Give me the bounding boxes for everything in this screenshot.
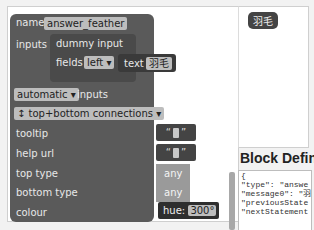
hue-block[interactable]: hue: 300° xyxy=(158,202,219,219)
colour-label: colour xyxy=(16,207,47,218)
quote-close-icon: ” xyxy=(181,147,186,158)
code-line: "message0": "羽 xyxy=(241,189,311,198)
fields-align-dropdown[interactable]: left ▾ xyxy=(84,56,114,69)
text-label: text xyxy=(124,58,144,69)
name-field[interactable]: answer_feather xyxy=(44,17,127,30)
chevron-down-icon: ▾ xyxy=(71,89,76,100)
quote-open-icon: “ xyxy=(166,127,171,138)
connections-dropdown[interactable]: ↕ top+bottom connections ▾ xyxy=(14,107,164,120)
toptype-any-block[interactable]: any xyxy=(156,164,190,184)
dummy-input-label: dummy input xyxy=(56,38,123,49)
inputs-mode-suffix: inputs xyxy=(77,89,108,100)
code-line: "nextStatement xyxy=(241,207,311,216)
chevron-down-icon: ▾ xyxy=(156,108,161,119)
code-line: { xyxy=(241,171,311,180)
text-value-field[interactable]: 羽毛 xyxy=(146,57,172,70)
bottomtype-label: bottom type xyxy=(16,187,78,198)
inputs-mode-dropdown[interactable]: automatic ▾ xyxy=(14,88,79,101)
bottomtype-any-block[interactable]: any xyxy=(156,183,190,202)
block-definition-code[interactable]: { "type": "answe "message0": "羽 "previou… xyxy=(238,170,312,230)
quote-close-icon: ” xyxy=(181,127,186,138)
fields-align-value: left xyxy=(87,57,103,68)
hue-label: hue: xyxy=(163,205,185,216)
connections-value: top+bottom connections xyxy=(29,108,153,119)
code-line: "previousState xyxy=(241,198,311,207)
code-line: "type": "answe xyxy=(241,180,311,189)
toptype-label: top type xyxy=(16,168,58,179)
fields-label: fields xyxy=(56,57,83,68)
inputs-mode-value: automatic xyxy=(17,89,68,100)
tooltip-text-field[interactable] xyxy=(173,128,179,138)
hue-value-field[interactable]: 300° xyxy=(188,205,216,216)
helpurl-text-field[interactable] xyxy=(173,148,179,158)
tooltip-label: tooltip xyxy=(16,128,48,139)
chevron-down-icon: ▾ xyxy=(106,57,111,68)
helpurl-text-block[interactable]: “” xyxy=(156,144,196,161)
inputs-label: inputs xyxy=(16,39,47,50)
quote-open-icon: “ xyxy=(166,147,171,158)
block-definition-heading: Block Defin xyxy=(240,150,314,166)
preview-block[interactable]: 羽毛 xyxy=(248,12,278,29)
updown-arrow-icon: ↕ xyxy=(17,108,25,119)
tooltip-text-block[interactable]: “” xyxy=(156,124,196,141)
helpurl-label: help url xyxy=(16,148,54,159)
name-label: name xyxy=(16,17,44,28)
scrollbar[interactable] xyxy=(229,172,235,230)
